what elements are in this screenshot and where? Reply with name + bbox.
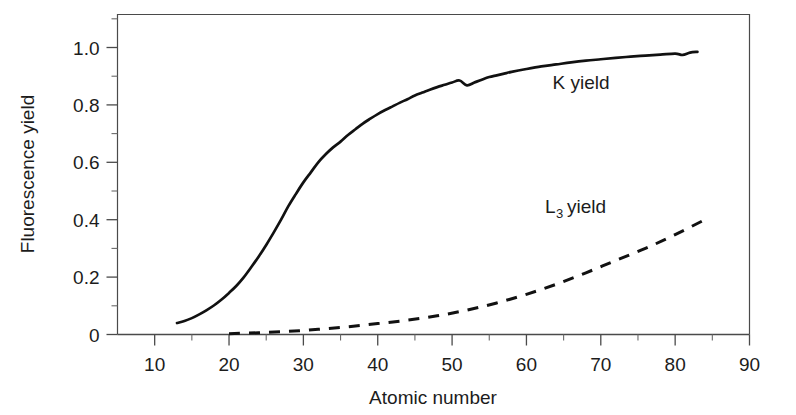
x-axis-tick-labels: 102030405060708090 bbox=[144, 354, 760, 375]
x-tick-label: 60 bbox=[516, 354, 537, 375]
x-tick-label: 90 bbox=[739, 354, 760, 375]
series-label-l3-yield: L 3 yield bbox=[545, 196, 606, 221]
x-tick-label: 70 bbox=[590, 354, 611, 375]
y-tick-label: 0.8 bbox=[73, 95, 99, 116]
plot-frame bbox=[118, 15, 750, 335]
data-curves bbox=[177, 52, 705, 334]
series-label-l3-word: yield bbox=[567, 196, 606, 217]
x-tick-label: 30 bbox=[293, 354, 314, 375]
y-tick-label: 0.4 bbox=[73, 210, 100, 231]
x-tick-label: 40 bbox=[367, 354, 388, 375]
y-tick-label: 0.6 bbox=[73, 152, 99, 173]
curve-l3-yield bbox=[229, 220, 705, 334]
y-axis-title: Fluorescence yield bbox=[17, 95, 38, 253]
x-axis-title: Atomic number bbox=[369, 387, 497, 408]
x-tick-label: 50 bbox=[442, 354, 463, 375]
y-tick-label: 0 bbox=[89, 325, 100, 346]
curve-k-yield bbox=[177, 52, 697, 323]
series-label-l3-subscript: 3 bbox=[556, 206, 563, 221]
plot-border bbox=[118, 15, 750, 335]
series-label-l3-letter: L bbox=[545, 196, 556, 217]
x-tick-label: 20 bbox=[218, 354, 239, 375]
x-tick-label: 10 bbox=[144, 354, 165, 375]
y-tick-label: 1.0 bbox=[73, 38, 99, 59]
series-label-k-yield: K yield bbox=[552, 72, 609, 93]
y-tick-label: 0.2 bbox=[73, 267, 99, 288]
y-axis-tick-labels: 00.20.40.60.81.0 bbox=[73, 38, 100, 346]
chart-canvas: 102030405060708090 00.20.40.60.81.0 Atom… bbox=[0, 0, 796, 415]
x-tick-label: 80 bbox=[665, 354, 686, 375]
x-axis-ticks bbox=[155, 335, 750, 346]
fluorescence-yield-chart: 102030405060708090 00.20.40.60.81.0 Atom… bbox=[0, 0, 796, 415]
y-axis-ticks bbox=[107, 19, 118, 335]
